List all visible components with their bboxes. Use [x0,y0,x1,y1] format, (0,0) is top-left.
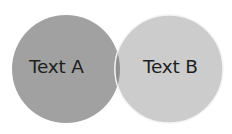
label-a: Text A [29,56,84,77]
label-b: Text B [143,56,198,77]
